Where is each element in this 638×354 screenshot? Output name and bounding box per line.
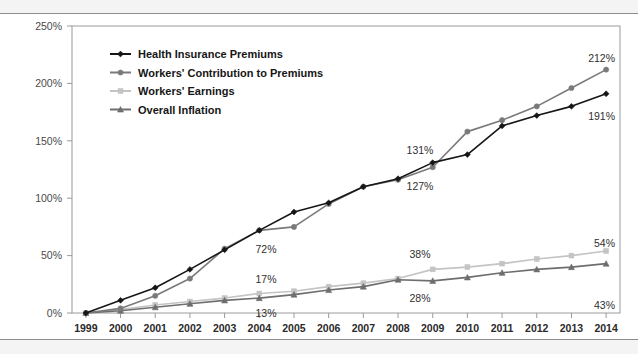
x-tick-label: 2004 <box>248 322 272 334</box>
x-tick-label: 2006 <box>317 322 341 334</box>
data-point-label: 191% <box>588 110 615 122</box>
legend-item-2: Workers' Contribution to Premiums <box>110 67 323 79</box>
page-scan-band-bottom <box>0 340 638 354</box>
series-data-point <box>153 293 158 298</box>
legend-item-label: Workers' Earnings <box>138 85 235 97</box>
x-tick-label: 2009 <box>421 322 445 334</box>
series-data-point <box>499 118 504 123</box>
y-tick-label: 200% <box>35 77 62 89</box>
legend-marker-icon <box>118 70 123 75</box>
series-data-point <box>291 224 296 229</box>
x-tick-label: 2010 <box>456 322 480 334</box>
series-data-point <box>430 267 435 272</box>
data-point-label: 38% <box>409 248 430 260</box>
y-tick-label: 100% <box>35 192 62 204</box>
y-tick-label: 250% <box>35 20 62 32</box>
series-data-point <box>534 104 539 109</box>
data-point-label: 131% <box>407 144 434 156</box>
x-tick-label: 2011 <box>491 322 514 334</box>
data-point-label: 17% <box>255 273 276 285</box>
series-data-point <box>534 257 539 262</box>
legend-item-label: Overall Inflation <box>138 104 221 116</box>
data-point-label: 28% <box>409 292 430 304</box>
x-tick-label: 2003 <box>213 322 237 334</box>
x-tick-label: 2001 <box>144 322 168 334</box>
series-data-point <box>465 129 470 134</box>
page-scan-band-top <box>0 0 638 13</box>
y-tick-label: 50% <box>41 249 62 261</box>
line-chart: 0%50%100%150%200%250% 199920002001200220… <box>0 14 638 339</box>
x-tick-label: 2007 <box>352 322 376 334</box>
x-tick-label: 2012 <box>525 322 549 334</box>
data-point-label: 72% <box>255 243 276 255</box>
series-data-point <box>187 276 192 281</box>
legend-item-label: Health Insurance Premiums <box>138 48 283 60</box>
data-point-label: 127% <box>407 180 434 192</box>
x-tick-label: 2014 <box>594 322 618 334</box>
series-data-point <box>604 249 609 254</box>
y-tick-label: 0% <box>47 307 62 319</box>
data-point-label: 13% <box>255 307 276 319</box>
y-tick-label: 150% <box>35 135 62 147</box>
x-tick-label: 1999 <box>74 322 98 334</box>
series-data-point <box>569 85 574 90</box>
x-tick-label: 2002 <box>178 322 202 334</box>
series-data-point <box>569 253 574 258</box>
x-tick-label: 2005 <box>282 322 306 334</box>
data-point-label: 43% <box>594 299 615 311</box>
legend-marker-icon <box>118 89 123 94</box>
chart-background <box>0 14 638 339</box>
x-tick-label: 2000 <box>109 322 133 334</box>
data-point-label: 212% <box>588 52 615 64</box>
bottom-divider-rule <box>0 339 638 340</box>
chart-page: 0%50%100%150%200%250% 199920002001200220… <box>0 0 638 354</box>
x-tick-label: 2008 <box>386 322 410 334</box>
series-data-point <box>118 306 123 311</box>
series-data-point <box>500 261 505 266</box>
series-data-point <box>604 67 609 72</box>
legend-item-label: Workers' Contribution to Premiums <box>138 67 323 79</box>
x-tick-label: 2013 <box>560 322 584 334</box>
data-point-label: 54% <box>594 237 615 249</box>
series-data-point <box>465 265 470 270</box>
